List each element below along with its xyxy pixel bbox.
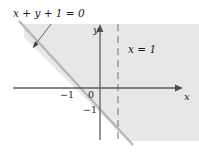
graph-canvas (0, 0, 199, 154)
x-axis-tick-label-neg1: −1 (60, 90, 74, 100)
x-axis-label: x (184, 92, 190, 102)
inequality-region-figure: x + y + 1 = 0 x = 1 y x −1 0 −1 (0, 0, 199, 154)
line-equation-label: x + y + 1 = 0 (13, 8, 85, 19)
vertical-line-equation-label: x = 1 (128, 44, 156, 55)
origin-label: 0 (88, 90, 94, 100)
y-axis-tick-label-neg1: −1 (83, 105, 97, 115)
shaded-region-halfplane (24, 24, 199, 141)
y-axis-label: y (93, 25, 99, 35)
